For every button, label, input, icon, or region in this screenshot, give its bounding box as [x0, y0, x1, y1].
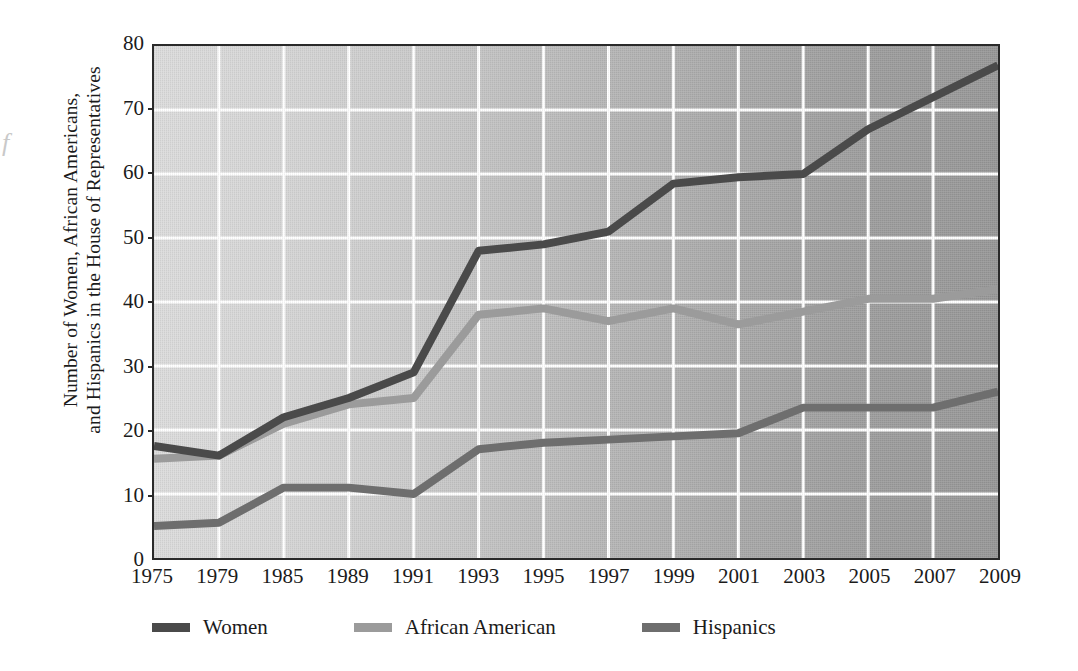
legend-item: African American [354, 617, 556, 638]
x-tick-label: 2005 [849, 566, 891, 587]
x-tick-label: 1989 [327, 566, 369, 587]
legend-item: Hispanics [642, 617, 776, 638]
legend-swatch-icon [152, 623, 190, 632]
x-tick-label: 2003 [783, 566, 825, 587]
y-tick-label: 20 [100, 420, 144, 441]
x-tick-label: 1993 [457, 566, 499, 587]
x-tick-label: 1975 [131, 566, 173, 587]
legend-swatch-icon [642, 623, 680, 632]
y-tick-label: 50 [100, 227, 144, 248]
y-tick-label: 30 [100, 356, 144, 377]
y-axis-ticks: 01020304050607080 [96, 44, 144, 560]
x-tick-label: 1995 [522, 566, 564, 587]
x-tick-label: 1991 [392, 566, 434, 587]
legend-label: African American [405, 617, 556, 638]
page-bleed-glyph: f [2, 128, 9, 158]
y-tick-label: 10 [100, 485, 144, 506]
x-tick-label: 2009 [979, 566, 1021, 587]
y-tick-label: 60 [100, 162, 144, 183]
legend-label: Women [203, 617, 268, 638]
y-tick-label: 80 [100, 33, 144, 54]
y-axis-title-line-1: Number of Women, African Americans, [59, 93, 82, 408]
legend-swatch-icon [354, 623, 392, 632]
x-tick-label: 1997 [588, 566, 630, 587]
x-tick-label: 1999 [653, 566, 695, 587]
plot-area [152, 44, 1000, 560]
chart-figure: f Number of Women, African Americans, an… [0, 0, 1078, 671]
x-tick-label: 1979 [196, 566, 238, 587]
chart-legend: WomenAfrican AmericanHispanics [152, 612, 852, 642]
legend-label: Hispanics [693, 617, 776, 638]
series-lines [154, 46, 998, 558]
x-tick-label: 1985 [261, 566, 303, 587]
x-tick-label: 2007 [914, 566, 956, 587]
x-axis-ticks: 1975197919851989199119931995199719992001… [152, 566, 1000, 600]
x-tick-label: 2001 [718, 566, 760, 587]
legend-item: Women [152, 617, 268, 638]
y-tick-label: 70 [100, 98, 144, 119]
y-tick-label: 40 [100, 291, 144, 312]
